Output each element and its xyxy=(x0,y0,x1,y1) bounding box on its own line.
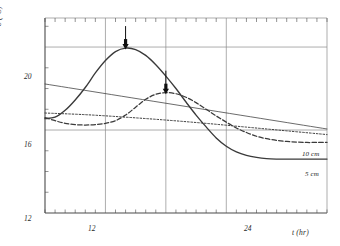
peak-arrow-5cm xyxy=(122,26,128,50)
curve-reference-dotted xyxy=(45,113,327,135)
curve-10cm xyxy=(45,93,327,143)
data-curves xyxy=(45,48,327,159)
grid-layer xyxy=(45,18,327,213)
curve-reference-straight xyxy=(45,84,327,129)
peak-annotations xyxy=(122,26,168,94)
curve-5cm xyxy=(45,48,327,159)
temperature-depth-chart xyxy=(0,0,340,246)
